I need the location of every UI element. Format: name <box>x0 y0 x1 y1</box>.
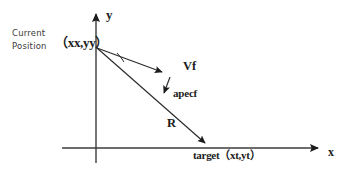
vf-vector <box>97 48 162 72</box>
y-axis-label: y <box>106 8 113 22</box>
current-position-label: Current Position <box>12 29 47 55</box>
current-position-line1: Current <box>12 29 47 38</box>
current-position-coords-label: （xx,yy） <box>55 36 108 50</box>
vf-vector-line <box>97 48 162 72</box>
apecf-vector <box>164 77 170 93</box>
x-axis-label: x <box>328 146 334 159</box>
apecf-vector-line <box>164 77 170 93</box>
vector-diagram-svg <box>0 0 341 175</box>
apecf-label: apecf <box>173 88 197 100</box>
vf-label: Vf <box>183 60 196 73</box>
r-label: R <box>167 117 176 130</box>
current-position-line2: Position <box>12 42 47 51</box>
diagram-canvas: Current Position （xx,yy） y x Vf apecf R … <box>0 0 341 175</box>
target-label: target（xt,yt） <box>193 150 260 162</box>
